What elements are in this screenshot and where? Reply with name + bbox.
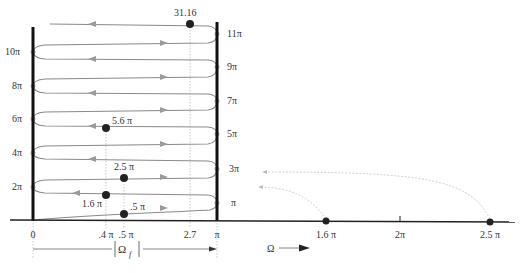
point-1-6pi [102,191,110,199]
label-5-6pi: 5.6 π [112,115,132,126]
point-axis-1-6pi [323,218,330,225]
label-1-6pi: 1.6 π [82,198,102,209]
left-label-2pi: 2π [12,181,22,192]
tick-2-7: 2.7 [184,229,197,240]
left-label-4pi: 4π [12,147,22,158]
point-0-5pi [120,210,128,218]
right-label-5pi: 5π [227,128,237,139]
label-0-5pi: .5 π [130,201,145,212]
fold-back-arrowheads [258,170,267,189]
axis-tick-labels: 0 .4 π .5 π 2.7 π 1.6 π 2π 2.5 π [31,229,501,240]
right-label-3pi: 3π [229,163,239,174]
frequency-folding-diagram: 31.16 5.6 π 2.5 π 1.6 π .5 π 10π 8π 6π 4… [0,0,525,273]
left-labels: 10π 8π 6π 4π 2π [5,46,22,192]
right-label-7pi: 7π [227,95,237,106]
tick-1-6pi: 1.6 π [316,229,336,240]
left-label-8pi: 8π [12,80,22,91]
right-labels: 11π 9π 7π 5π 3π π [227,28,242,208]
tick-2-5pi: 2.5 π [480,229,500,240]
right-label-pi: π [231,197,236,208]
tick-0-4pi: .4 π [98,229,113,240]
label-2-5pi: 2.5 π [114,161,134,172]
point-2-5pi [120,174,128,182]
tick-pi: π [214,229,219,240]
omega-symbol: Ω [267,243,274,254]
fold-back-arrows [262,172,490,219]
tick-0-5pi: .5 π [118,229,133,240]
left-label-6pi: 6π [12,113,22,124]
omega-f-range: Ω f [33,241,217,259]
omega-direction: Ω [267,243,310,254]
omega-f-subscript: f [129,250,133,259]
point-31-16 [186,20,194,28]
tick-2pi: 2π [395,229,405,240]
label-31-16: 31.16 [174,7,197,18]
point-5-6pi [102,124,110,132]
omega-f-symbol: Ω [118,243,126,255]
omega-axis [10,220,515,222]
figure-caption-clipped [0,266,525,273]
tick-0: 0 [31,229,36,240]
point-axis-2-5pi [487,219,494,226]
right-label-9pi: 9π [227,61,237,72]
left-label-10pi: 10π [5,46,20,57]
right-label-11pi: 11π [227,28,242,39]
